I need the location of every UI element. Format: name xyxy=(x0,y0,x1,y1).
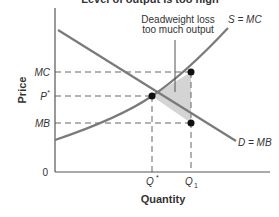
x-axis-label: Quantity xyxy=(141,193,186,205)
demand-label: D = MB xyxy=(238,137,272,148)
dwl-label-line2: too much output xyxy=(142,24,214,35)
chart-title: Level of output is too high xyxy=(81,0,219,5)
origin-label: 0 xyxy=(42,167,48,178)
equilibrium-point xyxy=(149,93,156,100)
mc-point xyxy=(188,69,195,76)
y-axis-label: Price xyxy=(16,77,28,104)
y-tick-pstar-sup: * xyxy=(47,89,50,96)
y-tick-mc: MC xyxy=(34,67,50,78)
deadweight-loss-area xyxy=(152,72,191,123)
supply-label: S = MC xyxy=(228,14,262,25)
y-tick-mb: MB xyxy=(35,118,50,129)
x-tick-q1: Q xyxy=(185,176,193,187)
x-tick-qstar-sup: * xyxy=(156,174,159,181)
x-tick-q1-sub: 1 xyxy=(194,182,198,189)
mb-point xyxy=(188,120,195,127)
x-tick-qstar: Q xyxy=(146,176,154,187)
y-tick-pstar: P xyxy=(40,91,47,102)
chart: Level of output is too high MC P * MB 0 … xyxy=(0,0,279,217)
